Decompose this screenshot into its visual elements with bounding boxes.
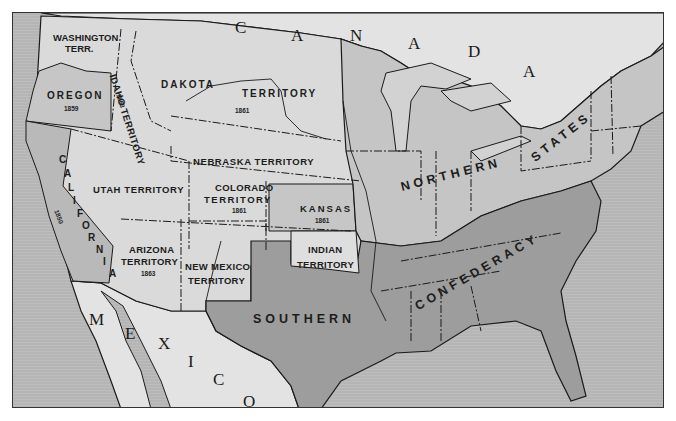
arizona-year: 1863 — [141, 271, 155, 278]
new-mexico-label-line2: TERRITORY — [188, 276, 245, 286]
kansas-year: 1861 — [315, 218, 329, 225]
washington-label-line2: TERR. — [65, 44, 94, 54]
mexico-letter: E — [125, 325, 135, 342]
dakota-territory-label: TERRITORY — [242, 89, 317, 99]
map-frame: C A N A D A M E X I C O WASHINGTON TERR.… — [12, 12, 664, 408]
southern-label: SOUTHERN — [253, 313, 355, 326]
nebraska-label: NEBRASKA TERRITORY — [193, 157, 314, 167]
canada-letter: A — [523, 63, 535, 80]
canada-letter: A — [408, 35, 420, 52]
california-letter: I — [73, 196, 77, 206]
california-letter: C — [59, 155, 67, 165]
mexico-letter: I — [188, 353, 194, 370]
mexico-letter: O — [243, 393, 255, 408]
oregon-label: OREGON — [47, 91, 103, 101]
california-letter: I — [103, 257, 107, 267]
mexico-letter: X — [158, 335, 170, 352]
california-letter: F — [77, 209, 84, 219]
canada-letter: D — [468, 43, 480, 60]
utah-label: UTAH TERRITORY — [93, 185, 184, 195]
canada-letter: N — [350, 27, 362, 44]
washington-label-line1: WASHINGTON — [53, 33, 118, 43]
mexico-letter: C — [213, 371, 224, 388]
indian-territory-label-line2: TERRITORY — [297, 260, 354, 270]
california-letter: R — [88, 233, 96, 243]
dakota-year: 1861 — [235, 108, 249, 115]
mexico-letter: M — [89, 311, 104, 328]
arizona-label-line2: TERRITORY — [121, 257, 178, 267]
colorado-year: 1861 — [232, 208, 246, 215]
indian-territory-label-line1: INDIAN — [308, 245, 343, 255]
california-letter: N — [96, 245, 104, 255]
california-letter: O — [82, 221, 91, 231]
california-letter: A — [109, 269, 117, 279]
new-mexico-label-line1: NEW MEXICO — [185, 262, 250, 272]
kansas-label: KANSAS — [300, 204, 352, 214]
canada-letter: C — [235, 19, 246, 36]
california-letter: A — [64, 169, 72, 179]
california-letter: L — [68, 183, 75, 193]
arizona-label-line1: ARIZONA — [129, 245, 174, 255]
colorado-label-line2: TERRITORY — [204, 195, 272, 205]
oregon-year: 1859 — [64, 106, 78, 113]
colorado-label-line1: COLORADO — [215, 183, 274, 193]
dakota-label: DAKOTA — [161, 80, 215, 90]
canada-letter: A — [291, 27, 303, 44]
